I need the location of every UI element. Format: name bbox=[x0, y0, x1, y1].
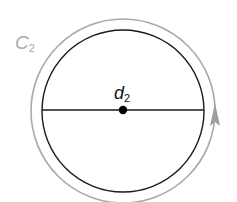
curve-label-c2: C2 bbox=[15, 33, 35, 54]
center-point bbox=[119, 106, 127, 114]
center-label-d2: d2 bbox=[114, 84, 130, 104]
